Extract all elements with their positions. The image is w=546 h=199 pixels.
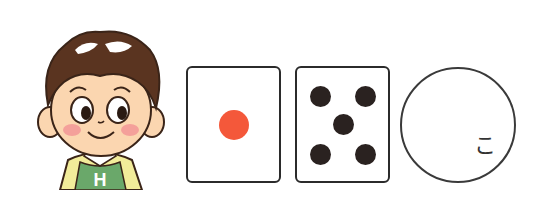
boy-character-illustration: H — [20, 10, 180, 190]
apron-letter: H — [94, 170, 107, 190]
ko-label: こ — [474, 135, 496, 157]
black-pip-icon — [333, 114, 354, 135]
black-pip-icon — [310, 86, 331, 107]
red-pip-icon — [219, 110, 249, 140]
black-pip-icon — [310, 144, 331, 165]
die-face-five-card — [295, 66, 390, 183]
die-face-one-card — [186, 66, 281, 183]
boy-icon: H — [20, 10, 180, 190]
black-pip-icon — [355, 86, 376, 107]
black-pip-icon — [355, 144, 376, 165]
answer-circle: こ — [400, 67, 516, 183]
